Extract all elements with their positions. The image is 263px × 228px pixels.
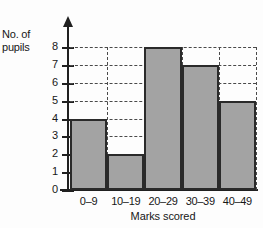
histogram-figure: No. of pupils 012345678 0–910–1920–2930–…: [0, 0, 263, 228]
gridline-x-5: [256, 47, 257, 190]
y-tick-label-1: 1: [38, 166, 58, 177]
y-tick-label-2: 2: [38, 148, 58, 159]
y-tick-label-8: 8: [38, 41, 58, 52]
y-tick-label-4: 4: [38, 113, 58, 124]
y-tick-label-6: 6: [38, 77, 58, 88]
bar: [219, 101, 256, 190]
y-tick-label-3: 3: [38, 130, 58, 141]
bar: [144, 47, 181, 190]
y-axis-title-line-1: No. of: [2, 28, 54, 41]
x-axis-tick-labels: 0–910–1920–2930–3940–49: [55, 195, 263, 209]
bar: [70, 119, 107, 191]
plot-area: [70, 47, 256, 190]
x-tick-label: 40–49: [212, 195, 263, 208]
y-tick-label-0: 0: [38, 184, 58, 195]
x-axis-title: Marks scored: [70, 210, 256, 223]
y-tick-label-5: 5: [38, 95, 58, 106]
y-tick-0: [62, 190, 74, 192]
y-axis-line: [67, 25, 69, 191]
y-tick-label-7: 7: [38, 59, 58, 70]
bar: [182, 65, 219, 190]
bar: [107, 154, 144, 190]
